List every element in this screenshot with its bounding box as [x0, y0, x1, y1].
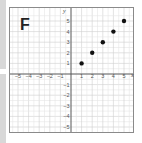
x-tick-label: −2 [47, 73, 53, 79]
data-point [90, 51, 94, 55]
y-tick-label: −4 [63, 113, 69, 119]
x-tick-label: 4 [112, 73, 115, 79]
data-point [101, 40, 105, 44]
y-axis-label: y [62, 8, 66, 14]
y-tick-label: 3 [66, 39, 69, 45]
x-tick-label: −5 [15, 73, 21, 79]
y-tick-label: 1 [66, 60, 69, 66]
y-tick-label: −1 [63, 82, 69, 88]
x-tick-label: 3 [101, 73, 104, 79]
panel-label: F [20, 16, 30, 33]
x-tick-label: 2 [91, 73, 94, 79]
y-tick-label: −5 [63, 124, 69, 130]
y-tick-label: −3 [63, 103, 69, 109]
coordinate-plane: −5−4−3−2−11234554321−1−2−3−4−5 F x y [0, 0, 142, 143]
x-tick-label: −4 [25, 73, 31, 79]
x-tick-label: −3 [36, 73, 42, 79]
x-tick-label: 5 [122, 73, 125, 79]
data-point [79, 61, 83, 65]
data-point [111, 29, 115, 33]
y-tick-label: 2 [66, 50, 69, 56]
x-axis-label: x [130, 72, 134, 78]
data-point [122, 19, 126, 23]
y-tick-label: −2 [63, 92, 69, 98]
y-tick-label: 4 [66, 29, 69, 35]
y-tick-label: 5 [66, 18, 69, 24]
x-tick-label: −1 [57, 73, 63, 79]
x-tick-label: 1 [80, 73, 83, 79]
